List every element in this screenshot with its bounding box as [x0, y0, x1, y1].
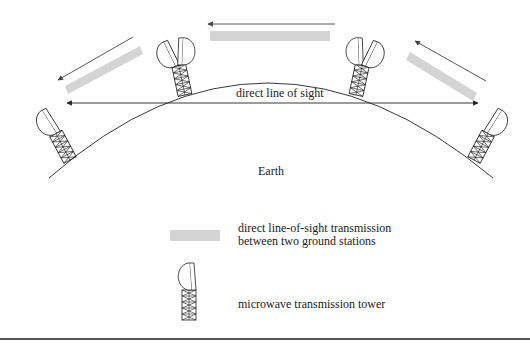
bottom-rule	[0, 338, 530, 340]
tower-relay-right	[335, 34, 389, 99]
legend-bar-text-2: between two ground stations	[238, 235, 376, 248]
tower-right-end	[468, 106, 512, 166]
legend-tower-symbol	[178, 263, 196, 320]
line-of-sight-label: direct line of sight	[236, 87, 324, 100]
earth-label: Earth	[258, 165, 284, 178]
legend-tower-text: microwave transmission tower	[238, 298, 385, 311]
legend-bar-symbol	[170, 230, 220, 241]
tower-relay-left	[152, 34, 206, 99]
tower-left-end	[32, 106, 76, 166]
